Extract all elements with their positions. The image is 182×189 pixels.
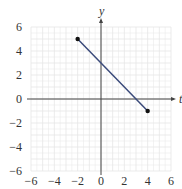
- y-tick-label: −2: [9, 116, 22, 130]
- x-tick-label: 4: [145, 174, 151, 188]
- chart-canvas: −6−4−20246 −6−4−20246 t y: [0, 0, 182, 189]
- y-tick-labels: −6−4−20246: [9, 20, 22, 178]
- x-axis-label: t: [179, 92, 182, 106]
- y-axis-arrow-icon: [99, 18, 103, 23]
- x-tick-label: 6: [168, 174, 174, 188]
- y-axis-label: y: [98, 4, 105, 18]
- endpoint-dot: [145, 109, 149, 113]
- x-tick-label: 2: [121, 174, 127, 188]
- y-tick-label: −6: [9, 164, 22, 178]
- y-tick-label: 0: [16, 92, 22, 106]
- y-tick-label: 6: [16, 20, 22, 34]
- endpoint-dot: [75, 37, 79, 41]
- x-tick-labels: −6−4−20246: [25, 174, 174, 188]
- y-tick-label: −4: [9, 140, 22, 154]
- x-tick-label: −6: [25, 174, 38, 188]
- x-tick-label: −4: [48, 174, 61, 188]
- y-tick-label: 2: [16, 68, 22, 82]
- x-tick-label: 0: [98, 174, 104, 188]
- x-tick-label: −2: [71, 174, 84, 188]
- y-tick-label: 4: [16, 44, 22, 58]
- x-axis-arrow-icon: [171, 97, 176, 101]
